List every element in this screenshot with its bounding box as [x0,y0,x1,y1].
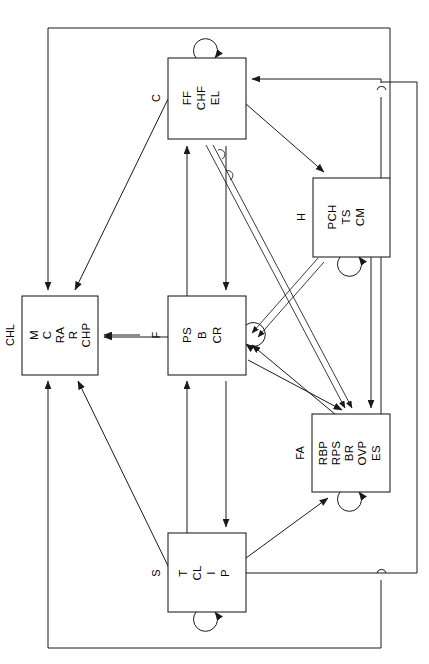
node-h-label-1: TS [340,209,352,224]
node-s-label-3: P [219,569,231,577]
node-c-label-1: CHF [195,86,207,110]
self-loop-h [338,257,362,276]
node-fa-label-1: RPS [330,441,342,465]
edge-hop-arc-lower [377,569,386,573]
node-s-label-1: CL [191,565,203,581]
edge-s-to-c-far-right [246,82,417,573]
node-h[interactable]: H PCH TS CM [295,178,390,257]
node-fa-label-4: ES [370,445,382,461]
self-loop-s [194,612,218,631]
node-s-tag: S [150,569,162,576]
edge-fa-to-f [252,345,342,420]
node-s-label-0: T [177,569,189,576]
node-fa[interactable]: FA RBP RPS BR OVP ES [294,414,390,492]
node-fa-label-0: RBP [317,441,329,465]
edge-c-to-h [246,104,324,172]
node-s-label-2: I [205,571,217,574]
edge-s-to-fa [246,498,328,558]
diagram-canvas: C FF CHF EL H PCH TS CM CHL M C RA R CHP… [0,0,429,664]
edge-h-to-f-a [252,258,318,333]
self-loop-fa [338,492,362,511]
node-c-label-2: EL [209,90,221,105]
node-chl[interactable]: CHL M C RA R CHP [4,296,98,375]
node-chl-label-1: C [41,331,53,340]
node-f-label-2: CR [211,326,223,343]
node-c-tag: C [150,94,162,102]
node-chl-label-3: R [67,331,79,340]
self-loop-c [194,39,218,58]
edge-hop-arc-upper [377,86,386,90]
node-f[interactable]: F PS B CR [150,296,246,375]
edge-f-to-fa [248,360,342,410]
self-loop-f [246,323,265,347]
node-f-label-0: PS [181,327,193,343]
node-h-label-0: PCH [326,205,338,230]
node-fa-tag: FA [294,446,306,460]
edge-h-to-f-b [258,262,324,337]
edge-c-to-chl [75,99,168,290]
node-f-tag: F [150,331,162,338]
node-s[interactable]: S T CL I P [150,533,246,612]
node-c-label-0: FF [181,91,193,105]
edge-fa-to-c-outer-head [252,79,381,83]
node-c-rect[interactable] [168,58,246,139]
node-fa-label-2: BR [343,445,355,461]
node-h-tag: H [295,213,307,221]
edge-s-to-chl [78,381,170,570]
node-chl-label-0: M [28,330,40,340]
node-c[interactable]: C FF CHF EL [150,58,246,139]
node-chl-label-2: RA [54,327,66,344]
node-chl-label-4: CHP [80,322,92,347]
edge-hop-arc-c-fa-1 [218,150,225,159]
node-fa-label-3: OVP [356,440,368,465]
node-h-label-2: CM [354,208,366,226]
node-f-label-1: B [196,331,208,339]
node-chl-tag: CHL [4,324,16,346]
block-diagram-svg: C FF CHF EL H PCH TS CM CHL M C RA R CHP… [0,0,429,664]
